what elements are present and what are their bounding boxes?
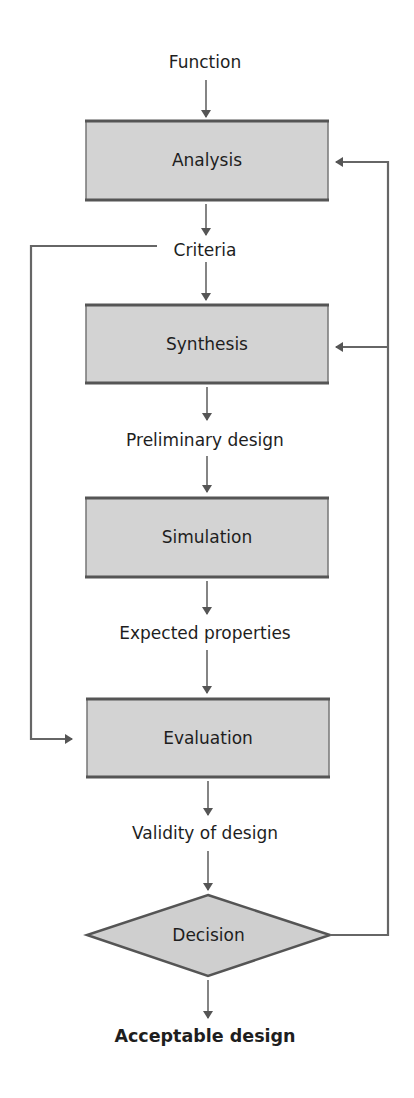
criteria-label: Criteria (0, 239, 412, 261)
analysis-label: Analysis (86, 149, 328, 171)
function-label: Function (0, 51, 412, 73)
simulation-label: Simulation (86, 526, 328, 548)
decision-label: Decision (87, 924, 330, 946)
validity-of-design-label: Validity of design (0, 822, 412, 844)
synthesis-label: Synthesis (86, 333, 328, 355)
expected-properties-label: Expected properties (0, 622, 412, 644)
evaluation-label: Evaluation (87, 727, 329, 749)
decision-feedback-connector (330, 162, 388, 935)
preliminary-design-label: Preliminary design (0, 429, 412, 451)
acceptable-design-label: Acceptable design (0, 1025, 412, 1047)
